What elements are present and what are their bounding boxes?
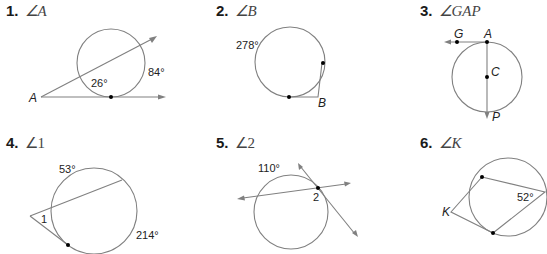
figure-3: G A C P [444, 27, 522, 124]
arrow-icon [158, 95, 166, 100]
arc-label: 84° [148, 66, 165, 78]
label-c: C [491, 65, 500, 79]
secant-line [243, 184, 346, 198]
label-a: A [483, 27, 492, 41]
circle [51, 168, 137, 254]
angle-label: 2 [313, 191, 319, 203]
arrow-icon [485, 112, 490, 119]
tangent-lines [451, 177, 493, 233]
arrow-icon [344, 182, 351, 187]
figure-1: A 26° 84° [28, 29, 166, 105]
arc-label: 214° [136, 229, 159, 241]
vertex-label: K [442, 205, 451, 219]
figure-5: 2 110° [237, 162, 358, 249]
geometry-figures: A 26° 84° B 278° G A C P 1 53° 214° [0, 0, 547, 254]
figure-2: B 278° [236, 27, 326, 110]
circle [255, 27, 325, 97]
arc-label: 53° [59, 163, 76, 175]
arrow-icon [444, 40, 451, 45]
tangent-line [30, 216, 68, 245]
circle [77, 29, 145, 97]
tangent-point [287, 95, 291, 99]
arrow-icon [149, 36, 157, 43]
arc-label: 110° [258, 162, 280, 174]
angle-label: 1 [41, 213, 47, 225]
vertex-label: A [28, 91, 37, 105]
tangent-lines [289, 63, 322, 97]
figure-4: 1 53° 214° [30, 163, 159, 254]
tangent-point [480, 175, 484, 179]
label-p: P [492, 110, 500, 124]
intersection-point [316, 186, 320, 190]
circle [469, 158, 547, 236]
angle-label: 52° [517, 191, 534, 203]
tangent-point [491, 231, 495, 235]
arc-label: 278° [236, 39, 259, 51]
arc-label: 26° [91, 77, 108, 89]
point-c [485, 75, 489, 79]
secant-line [30, 180, 122, 216]
tangent-point [109, 95, 113, 99]
vertex-label: B [318, 96, 326, 110]
tangent-point [66, 243, 70, 247]
figure-6: K 52° [442, 158, 547, 236]
tangent-point [321, 61, 325, 65]
label-g: G [454, 27, 463, 41]
tangent-line [300, 166, 355, 234]
arrow-icon [237, 196, 245, 201]
